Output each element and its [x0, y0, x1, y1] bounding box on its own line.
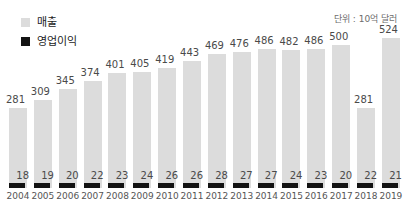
- profit-bar: [208, 183, 224, 188]
- bar-stack: 40123: [105, 28, 129, 188]
- bar-stack: 50020: [329, 28, 353, 188]
- profit-value-label: 27: [265, 171, 278, 181]
- bar-column: 281222018: [354, 28, 378, 205]
- x-axis-tick-label: 2005: [31, 188, 54, 205]
- revenue-value-label: 401: [105, 60, 124, 70]
- revenue-bar: 500: [332, 45, 350, 188]
- x-axis-tick-label: 2010: [156, 188, 179, 205]
- profit-value-label: 22: [91, 171, 104, 181]
- revenue-bar: 486: [307, 49, 325, 188]
- x-axis-tick-label: 2013: [230, 188, 253, 205]
- profit-bar: [133, 183, 149, 188]
- profit-bar: [59, 183, 75, 188]
- bar-column: 345202006: [56, 28, 80, 205]
- profit-value-label: 23: [116, 171, 129, 181]
- profit-value-label: 20: [66, 171, 79, 181]
- bar-stack: 48623: [304, 28, 328, 188]
- bar-column: 469282012: [205, 28, 229, 205]
- profit-value-label: 24: [290, 171, 303, 181]
- x-axis-tick-label: 2011: [181, 188, 204, 205]
- x-axis-tick-label: 2019: [379, 188, 402, 205]
- revenue-value-label: 500: [329, 32, 348, 42]
- bar-stack: 37422: [81, 28, 105, 188]
- profit-bar: [183, 183, 199, 188]
- x-axis-tick-label: 2018: [355, 188, 378, 205]
- bar-stack: 28122: [354, 28, 378, 188]
- plot-area: 2811820043091920053452020063742220074012…: [6, 28, 403, 205]
- revenue-value-label: 524: [379, 25, 398, 35]
- bar-stack: 48627: [255, 28, 279, 188]
- x-axis-tick-label: 2016: [305, 188, 328, 205]
- revenue-value-label: 486: [304, 36, 323, 46]
- profit-value-label: 26: [190, 171, 203, 181]
- bar-stack: 44326: [180, 28, 204, 188]
- x-axis-tick-label: 2004: [7, 188, 30, 205]
- bar-column: 374222007: [81, 28, 105, 205]
- bar-column: 401232008: [105, 28, 129, 205]
- profit-value-label: 26: [165, 171, 178, 181]
- revenue-value-label: 419: [155, 55, 174, 65]
- profit-bar: [357, 183, 373, 188]
- bar-column: 443262011: [180, 28, 204, 205]
- bar-column: 281182004: [6, 28, 30, 205]
- profit-bar: [332, 183, 348, 188]
- profit-value-label: 28: [215, 171, 228, 181]
- revenue-value-label: 281: [354, 95, 373, 105]
- bar-column: 524212019: [379, 28, 403, 205]
- x-axis-tick-label: 2007: [81, 188, 104, 205]
- profit-bar: [233, 183, 249, 188]
- revenue-bar: 469: [208, 54, 226, 188]
- revenue-bar: 524: [382, 38, 400, 188]
- profit-value-label: 27: [240, 171, 253, 181]
- x-axis-tick-label: 2014: [255, 188, 278, 205]
- bar-stack: 46928: [205, 28, 229, 188]
- bar-stack: 52421: [379, 28, 403, 188]
- profit-bar: [258, 183, 274, 188]
- revenue-value-label: 469: [205, 41, 224, 51]
- revenue-value-label: 281: [6, 95, 25, 105]
- profit-bar: [34, 183, 50, 188]
- profit-value-label: 20: [339, 171, 352, 181]
- bar-stack: 40524: [130, 28, 154, 188]
- profit-value-label: 22: [364, 171, 377, 181]
- legend-label-revenue: 매출: [37, 17, 57, 28]
- bar-stack: 48224: [279, 28, 303, 188]
- profit-value-label: 21: [389, 171, 402, 181]
- bar-column: 482242015: [279, 28, 303, 205]
- profit-value-label: 23: [315, 171, 328, 181]
- bar-stack: 47627: [230, 28, 254, 188]
- x-axis-tick-label: 2009: [131, 188, 154, 205]
- bar-stack: 34520: [56, 28, 80, 188]
- revenue-value-label: 345: [56, 76, 75, 86]
- x-axis-tick-label: 2008: [106, 188, 129, 205]
- bar-column: 500202017: [329, 28, 353, 205]
- bar-column: 486272014: [255, 28, 279, 205]
- x-axis-tick-label: 2012: [205, 188, 228, 205]
- bar-column: 419262010: [155, 28, 179, 205]
- bar-stack: 28118: [6, 28, 30, 188]
- bar-column: 309192005: [31, 28, 55, 205]
- legend-swatch-revenue: [21, 18, 30, 27]
- revenue-bar: 443: [183, 61, 201, 188]
- revenue-value-label: 374: [81, 68, 100, 78]
- bar-chart: 매출 영업이익 단위 : 10억 달러 28118200430919200534…: [0, 0, 407, 205]
- revenue-value-label: 405: [130, 59, 149, 69]
- profit-value-label: 19: [41, 171, 54, 181]
- bar-stack: 30919: [31, 28, 55, 188]
- revenue-bar: 486: [258, 49, 276, 188]
- profit-bar: [282, 183, 298, 188]
- profit-value-label: 18: [16, 171, 29, 181]
- profit-bar: [84, 183, 100, 188]
- profit-bar: [108, 183, 124, 188]
- x-axis-tick-label: 2017: [330, 188, 353, 205]
- bar-column: 405242009: [130, 28, 154, 205]
- bar-column: 486232016: [304, 28, 328, 205]
- x-axis-tick-label: 2015: [280, 188, 303, 205]
- profit-bar: [158, 183, 174, 188]
- bar-group: 2811820043091920053452020063742220074012…: [6, 28, 403, 205]
- revenue-value-label: 309: [31, 87, 50, 97]
- profit-bar: [382, 183, 398, 188]
- revenue-value-label: 482: [279, 37, 298, 47]
- revenue-bar: 482: [282, 50, 300, 188]
- x-axis-tick-label: 2006: [56, 188, 79, 205]
